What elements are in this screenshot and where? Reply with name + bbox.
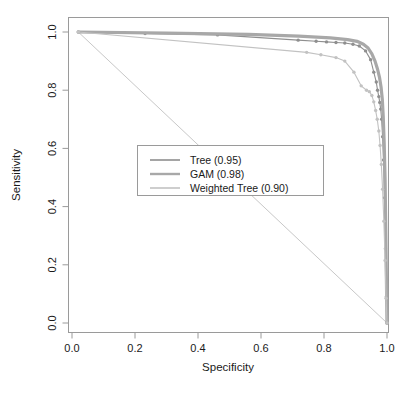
data-point: [377, 95, 380, 98]
data-point: [382, 219, 385, 222]
x-tick-label: 0.4: [190, 342, 205, 354]
data-point: [343, 41, 346, 44]
y-tick-label: 0.6: [46, 141, 58, 156]
y-tick-label: 0.8: [46, 83, 58, 98]
data-point: [385, 321, 388, 324]
data-point: [352, 70, 355, 73]
y-axis-ticks: [63, 32, 69, 323]
data-point: [334, 41, 337, 44]
data-point: [375, 80, 378, 83]
data-point: [377, 129, 380, 132]
x-tick-label: 0.6: [253, 342, 268, 354]
data-point: [369, 58, 372, 61]
data-point: [364, 49, 367, 52]
plot-canvas: 0.00.20.40.60.81.0 0.00.20.40.60.81.0 Sp…: [0, 0, 417, 393]
legend-label-weighted-tree: Weighted Tree (0.90): [190, 182, 288, 194]
data-point: [381, 187, 384, 190]
data-point: [376, 89, 379, 92]
data-point: [314, 40, 317, 43]
data-point: [378, 144, 381, 147]
data-point: [319, 53, 322, 56]
data-point: [376, 118, 379, 121]
y-tick-label: 0.0: [46, 315, 58, 330]
roc-curve-figure: 0.00.20.40.60.81.0 0.00.20.40.60.81.0 Sp…: [0, 0, 417, 393]
x-tick-label: 0.8: [316, 342, 331, 354]
data-point: [359, 84, 362, 87]
x-tick-label: 1.0: [379, 342, 394, 354]
x-axis-ticks: [72, 333, 387, 339]
data-point: [383, 259, 386, 262]
data-point: [372, 70, 375, 73]
y-tick-label: 0.4: [46, 199, 58, 214]
data-point: [384, 297, 387, 300]
data-point: [368, 90, 371, 93]
data-point: [296, 38, 299, 41]
legend-label-tree: Tree (0.95): [190, 154, 242, 166]
x-tick-label: 0.0: [64, 342, 79, 354]
y-axis-tick-labels: 0.00.20.40.60.81.0: [46, 24, 58, 330]
data-point: [358, 44, 361, 47]
legend: Tree (0.95)GAM (0.98)Weighted Tree (0.90…: [138, 146, 324, 196]
y-axis-title: Sensitivity: [10, 149, 22, 201]
x-tick-label: 0.2: [127, 342, 142, 354]
data-point: [351, 43, 354, 46]
x-axis-tick-labels: 0.00.20.40.60.81.0: [64, 342, 394, 354]
data-point: [325, 40, 328, 43]
data-point: [374, 109, 377, 112]
legend-label-gam: GAM (0.98): [190, 168, 244, 180]
data-point: [305, 51, 308, 54]
x-axis-title: Specificity: [202, 361, 254, 373]
y-tick-label: 0.2: [46, 257, 58, 272]
data-point: [380, 163, 383, 166]
data-point: [372, 100, 375, 103]
data-point: [334, 56, 337, 59]
data-point: [343, 59, 346, 62]
data-point: [77, 30, 80, 33]
y-tick-label: 1.0: [46, 24, 58, 39]
data-point: [370, 94, 373, 97]
